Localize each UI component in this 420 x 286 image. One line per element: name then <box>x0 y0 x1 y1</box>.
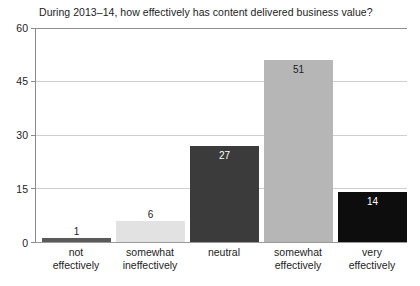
bar-somewhat-effectively[interactable] <box>264 60 333 242</box>
bar-group-very-effectively: 14 <box>338 28 407 242</box>
x-axis-line <box>35 242 407 243</box>
y-tick-label-45: 45 <box>2 76 28 86</box>
bar-group-not-effectively: 1 <box>42 28 111 242</box>
category-label-line-2: effectively <box>326 259 418 272</box>
y-tick-label-30: 30 <box>2 130 28 140</box>
bar-value-very-effectively: 14 <box>338 196 407 207</box>
bar-somewhat-ineffectively[interactable] <box>116 221 185 242</box>
bar-group-somewhat-ineffectively: 6 <box>116 28 185 242</box>
bar-value-not-effectively: 1 <box>42 226 111 237</box>
bar-value-somewhat-effectively: 51 <box>264 64 333 75</box>
x-axis-category-labels: not effectively somewhat ineffectively n… <box>35 246 407 282</box>
chart-title: During 2013–14, how effectively has cont… <box>39 6 415 19</box>
category-label-very-effectively: very effectively <box>326 246 418 271</box>
category-label-line-1: very <box>326 246 418 259</box>
category-label-line-2: ineffectively <box>104 259 196 272</box>
y-tick-label-15: 15 <box>2 184 28 194</box>
bar-not-effectively[interactable] <box>42 238 111 242</box>
y-tick-label-0: 0 <box>2 238 28 248</box>
bar-group-neutral: 27 <box>190 28 259 242</box>
bar-chart: During 2013–14, how effectively has cont… <box>0 0 420 286</box>
y-axis-tick-labels: 60 45 30 15 0 <box>0 0 28 286</box>
bar-value-neutral: 27 <box>190 150 259 161</box>
bar-value-somewhat-ineffectively: 6 <box>116 209 185 220</box>
bar-group-somewhat-effectively: 51 <box>264 28 333 242</box>
bars-layer: 1 6 27 51 14 <box>35 28 407 242</box>
y-tick-label-60: 60 <box>2 23 28 33</box>
